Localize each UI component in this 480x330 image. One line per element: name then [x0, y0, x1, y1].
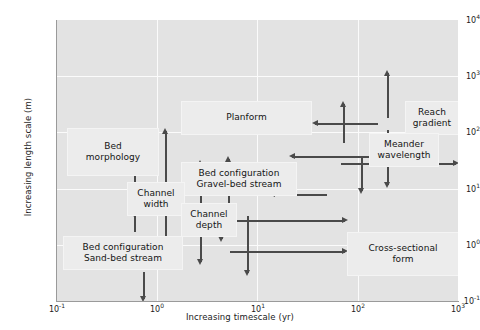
arrow-shaft — [247, 216, 248, 273]
x-axis-spine — [57, 301, 459, 302]
arrow-shaft — [361, 156, 362, 191]
arrow-shaft — [343, 104, 344, 143]
x-tick-label-10e3: 103 — [438, 305, 478, 314]
arrow-shaft — [230, 251, 345, 252]
x-tick-label-10e0: 100 — [137, 305, 177, 314]
arrow-shaft — [143, 272, 144, 299]
arrow-shaft — [387, 73, 388, 118]
x-tick-label-10e2: 102 — [338, 305, 378, 314]
y-axis-title: Increasing length scale (m) — [23, 57, 33, 257]
feature-box-planform[interactable]: Planform — [181, 101, 312, 135]
arrow-down-sand-bed-stream — [139, 272, 149, 301]
feature-box-bed-configuration-gravel-bed-stream[interactable]: Bed configuration Gravel-bed stream — [181, 162, 297, 196]
feature-box-channel-depth[interactable]: Channel depth — [181, 203, 237, 237]
feature-box-reach-gradient[interactable]: Reach gradient — [405, 101, 458, 135]
feature-box-meander-wavelength[interactable]: Meander wavelength — [369, 133, 439, 167]
feature-box-cross-sectional-form[interactable]: Cross-sectional form — [347, 232, 458, 276]
x-tick-label-10e1: 101 — [238, 305, 278, 314]
x-tick-label-10e-1: 10-1 — [37, 305, 77, 314]
arrow-down-channel-depth — [243, 216, 253, 276]
scatter-chart-figure: Increasing length scale (m) Increasing t… — [0, 0, 480, 330]
feature-box-bed-morphology[interactable]: Bed morphology — [67, 128, 159, 176]
arrow-right-sand-bed-stream — [230, 247, 348, 257]
arrow-down-meander-wavelength — [357, 156, 367, 194]
feature-box-bed-configuration-sand-bed-stream[interactable]: Bed configuration Sand-bed stream — [63, 236, 183, 270]
gridline-vertical-10e1 — [257, 20, 258, 301]
plot-area: Bed morphology Planform Reach gradient M… — [57, 20, 458, 301]
arrow-up-meander-wavelength — [339, 101, 349, 143]
arrow-up-reach-gradient — [383, 70, 393, 118]
feature-box-channel-width[interactable]: Channel width — [127, 182, 185, 216]
